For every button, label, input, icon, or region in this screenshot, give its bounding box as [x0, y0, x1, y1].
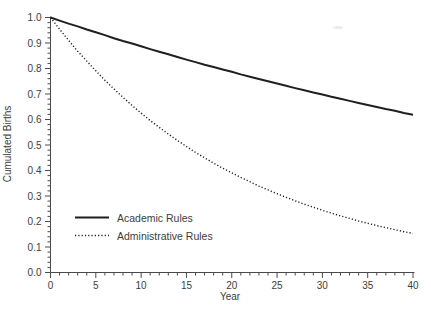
- data-curves: [51, 18, 414, 234]
- y-tick-label: 0.9: [28, 38, 42, 49]
- y-tick-label: 0.6: [28, 114, 42, 125]
- x-tick-label: 40: [407, 280, 419, 291]
- scan-artifact: [333, 26, 343, 29]
- y-tick-label: 0.3: [28, 191, 42, 202]
- y-axis-ticks: 0.00.10.20.30.40.50.60.70.80.91.0: [28, 12, 51, 278]
- x-tick-label: 30: [317, 280, 329, 291]
- administrative-rules-curve: [51, 18, 414, 234]
- x-tick-label: 10: [136, 280, 148, 291]
- survival-curve-figure: 0.00.10.20.30.40.50.60.70.80.91.0 051015…: [0, 0, 431, 319]
- x-tick-label: 25: [272, 280, 284, 291]
- y-tick-label: 0.7: [28, 89, 42, 100]
- y-axis-title: Cumulated Births: [2, 106, 13, 183]
- y-tick-label: 0.2: [28, 216, 42, 227]
- y-tick-label: 0.1: [28, 242, 42, 253]
- legend-label-administrative-rules: Administrative Rules: [117, 230, 213, 242]
- y-tick-label: 0.8: [28, 63, 42, 74]
- y-tick-label: 1.0: [28, 12, 42, 23]
- x-tick-label: 5: [93, 280, 99, 291]
- cumulated-births-chart: 0.00.10.20.30.40.50.60.70.80.91.0 051015…: [0, 0, 431, 319]
- x-tick-label: 20: [226, 280, 238, 291]
- x-tick-label: 0: [48, 280, 54, 291]
- y-tick-label: 0.5: [28, 140, 42, 151]
- legend: Academic Rules Administrative Rules: [75, 212, 213, 242]
- y-tick-label: 0.4: [28, 165, 42, 176]
- x-tick-label: 15: [181, 280, 193, 291]
- x-tick-label: 35: [362, 280, 374, 291]
- academic-rules-curve: [51, 18, 414, 115]
- x-axis-ticks: 0510152025303540: [48, 273, 419, 292]
- legend-label-academic-rules: Academic Rules: [117, 212, 193, 224]
- x-axis-title: Year: [220, 291, 241, 302]
- y-tick-label: 0.0: [28, 267, 42, 278]
